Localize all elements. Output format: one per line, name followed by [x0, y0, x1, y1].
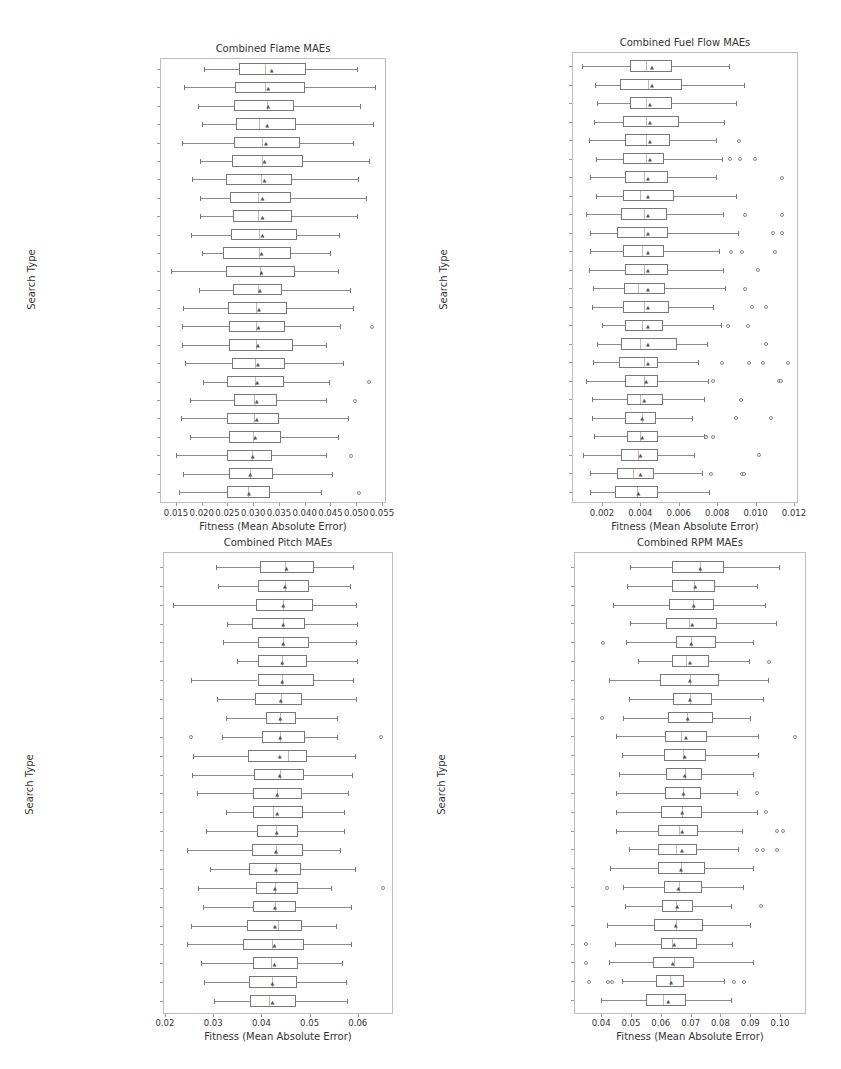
- whisker-cap-low: [191, 678, 192, 683]
- y-tick-mark: [571, 661, 574, 662]
- y-tick-mark: [569, 344, 572, 345]
- whisker-high: [285, 363, 343, 364]
- whisker-low: [623, 718, 668, 719]
- y-tick-mark: [157, 179, 160, 180]
- x-tick-mark: [330, 503, 331, 506]
- whisker-cap-high: [725, 286, 726, 291]
- iqr-box: [658, 844, 697, 856]
- whisker-low: [592, 399, 627, 400]
- outlier-point: [786, 361, 790, 365]
- y-tick-mark: [571, 887, 574, 888]
- whisker-low: [190, 400, 233, 401]
- iqr-box: [625, 375, 658, 386]
- y-tick-mark: [157, 382, 160, 383]
- outlier-point: [709, 472, 713, 476]
- iqr-box: [258, 674, 314, 686]
- whisker-low: [592, 307, 623, 308]
- whisker-high: [712, 699, 763, 700]
- median-line: [644, 172, 645, 181]
- whisker-cap-high: [336, 924, 337, 929]
- mean-marker-icon: ▲: [666, 998, 670, 1003]
- mean-marker-icon: ▲: [640, 416, 644, 421]
- whisker-cap-high: [351, 942, 352, 947]
- median-line: [644, 228, 645, 237]
- mean-marker-icon: ▲: [646, 360, 650, 365]
- x-tick-mark: [780, 1014, 781, 1017]
- whisker-cap-low: [226, 716, 227, 721]
- whisker-cap-low: [176, 453, 177, 458]
- whisker-cap-high: [347, 999, 348, 1004]
- whisker-cap-high: [709, 490, 710, 495]
- y-axis-title: Search Type: [24, 750, 35, 820]
- iqr-box: [664, 881, 702, 893]
- whisker-cap-high: [731, 904, 732, 909]
- y-tick-mark: [160, 586, 163, 587]
- whisker-low: [182, 345, 229, 346]
- whisker-high: [309, 586, 350, 587]
- whisker-cap-high: [357, 659, 358, 664]
- x-tick-mark: [601, 1014, 602, 1017]
- whisker-low: [613, 605, 669, 606]
- mean-marker-icon: ▲: [274, 867, 278, 872]
- iqr-box: [623, 153, 664, 164]
- whisker-low: [590, 473, 617, 474]
- whisker-cap-low: [182, 141, 183, 146]
- whisker-high: [663, 325, 721, 326]
- y-tick-mark: [569, 455, 572, 456]
- whisker-cap-low: [590, 175, 591, 180]
- whisker-low: [179, 492, 227, 493]
- whisker-high: [679, 122, 724, 123]
- whisker-cap-high: [723, 268, 724, 273]
- whisker-cap-low: [592, 416, 593, 421]
- x-axis-title: Fitness (Mean Absolute Error): [616, 1031, 763, 1042]
- x-tick-mark: [202, 503, 203, 506]
- mean-marker-icon: ▲: [283, 584, 287, 589]
- x-tick-mark: [356, 503, 357, 506]
- y-tick-mark: [569, 436, 572, 437]
- mean-marker-icon: ▲: [271, 999, 275, 1004]
- y-tick-mark: [571, 680, 574, 681]
- x-tick-mark: [227, 503, 228, 506]
- y-tick-mark: [571, 981, 574, 982]
- whisker-low: [583, 455, 621, 456]
- mean-marker-icon: ▲: [278, 754, 282, 759]
- x-tick-mark: [382, 503, 383, 506]
- iqr-box: [226, 174, 292, 185]
- whisker-cap-high: [749, 659, 750, 664]
- whisker-high: [716, 642, 753, 643]
- whisker-cap-high: [757, 810, 758, 815]
- mean-marker-icon: ▲: [686, 716, 690, 721]
- y-tick-mark: [571, 699, 574, 700]
- whisker-low: [616, 831, 658, 832]
- y-tick-mark: [569, 251, 572, 252]
- y-tick-mark: [571, 793, 574, 794]
- whisker-low: [198, 888, 256, 889]
- whisker-low: [586, 381, 625, 382]
- whisker-low: [226, 812, 253, 813]
- mean-marker-icon: ▲: [688, 678, 692, 683]
- whisker-cap-high: [694, 453, 695, 458]
- y-tick-mark: [160, 1001, 163, 1002]
- whisker-cap-high: [721, 323, 722, 328]
- y-tick-mark: [160, 963, 163, 964]
- outlier-point: [728, 157, 732, 161]
- whisker-cap-low: [596, 157, 597, 162]
- y-tick-mark: [160, 642, 163, 643]
- outlier-point: [753, 157, 757, 161]
- x-tick-mark: [750, 1014, 751, 1017]
- whisker-high: [292, 179, 358, 180]
- whisker-cap-high: [753, 772, 754, 777]
- whisker-high: [285, 326, 340, 327]
- whisker-high: [307, 756, 355, 757]
- y-tick-mark: [157, 124, 160, 125]
- whisker-cap-high: [344, 829, 345, 834]
- whisker-cap-high: [331, 886, 332, 891]
- whisker-high: [298, 963, 342, 964]
- y-tick-mark: [157, 455, 160, 456]
- mean-marker-icon: ▲: [644, 379, 648, 384]
- mean-marker-icon: ▲: [261, 196, 265, 201]
- whisker-cap-low: [226, 810, 227, 815]
- whisker-cap-low: [590, 471, 591, 476]
- chart-title: Combined RPM MAEs: [574, 537, 806, 548]
- whisker-high: [305, 624, 357, 625]
